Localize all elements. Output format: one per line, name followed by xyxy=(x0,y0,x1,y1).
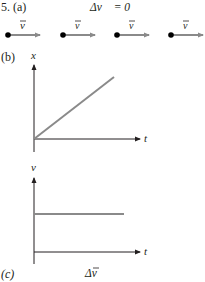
x-axis-label-position: x xyxy=(31,49,36,61)
position-time-graph xyxy=(34,65,140,152)
svg-text:v: v xyxy=(129,20,134,31)
velocity-arrow-2: v xyxy=(60,20,95,38)
velocity-arrow-3: v xyxy=(114,20,149,38)
t-axis-label-graph2: t xyxy=(144,245,147,257)
t-axis-label-graph1: t xyxy=(144,132,147,144)
velocity-arrow-1: v xyxy=(5,19,40,38)
velocity-time-graph xyxy=(34,178,140,264)
part-b-label: (b) xyxy=(1,50,15,65)
motion-diagram: v v v v xyxy=(5,19,203,38)
svg-text:v: v xyxy=(75,20,80,31)
svg-text:v: v xyxy=(183,20,188,31)
velocity-arrow-4: v xyxy=(168,20,203,38)
part-c-delta-v: Δv⃗ xyxy=(85,267,106,279)
v-axis-label-velocity: v xyxy=(31,161,36,173)
part-c-label: (c) xyxy=(1,267,14,282)
